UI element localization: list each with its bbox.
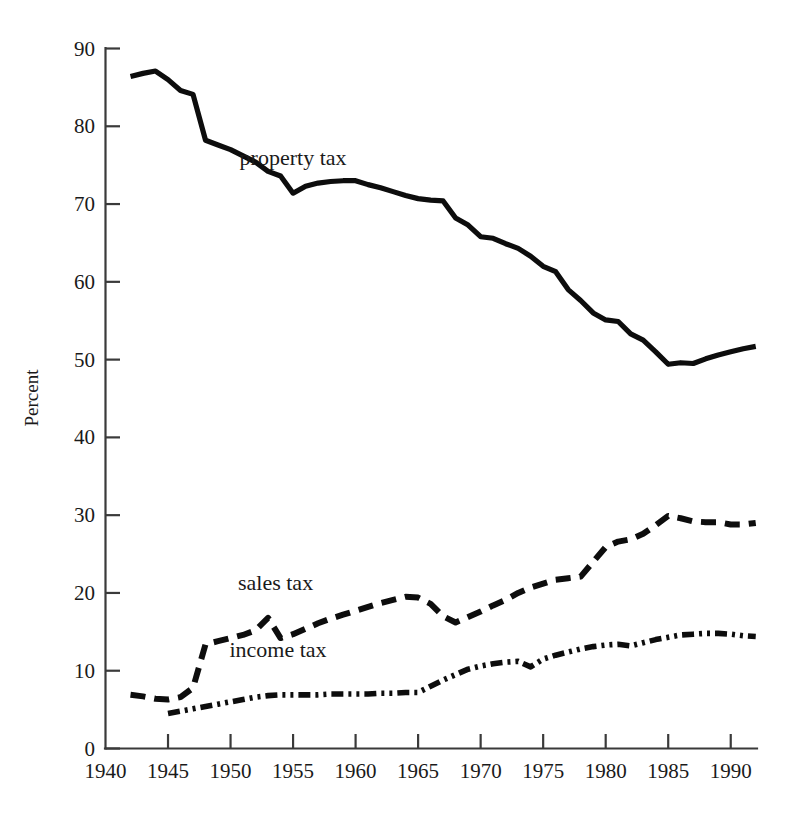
x-tick-label-1940: 1940 bbox=[85, 759, 127, 783]
y-tick-label-70: 70 bbox=[74, 192, 95, 216]
chart-page: 0102030405060708090 19401945195019551960… bbox=[0, 0, 792, 824]
y-axis-title: Percent bbox=[21, 369, 42, 427]
series-label-income-tax: income tax bbox=[229, 637, 326, 662]
y-tick-label-80: 80 bbox=[74, 114, 95, 138]
y-tick-label-10: 10 bbox=[74, 659, 95, 683]
x-tick-label-1975: 1975 bbox=[522, 759, 564, 783]
y-tick-label-60: 60 bbox=[74, 270, 95, 294]
y-tick-label-50: 50 bbox=[74, 348, 95, 372]
x-tick-marks bbox=[168, 734, 731, 749]
x-tick-label-1970: 1970 bbox=[460, 759, 502, 783]
y-tick-label-30: 30 bbox=[74, 503, 95, 527]
series-line-sales-tax bbox=[131, 516, 756, 700]
y-tick-label-0: 0 bbox=[85, 737, 96, 761]
series-labels: property taxsales taxincome tax bbox=[229, 145, 346, 662]
x-tick-label-1945: 1945 bbox=[147, 759, 189, 783]
x-tick-label-1955: 1955 bbox=[272, 759, 314, 783]
line-chart: 0102030405060708090 19401945195019551960… bbox=[0, 0, 792, 824]
x-tick-labels: 1940194519501955196019651970197519801985… bbox=[85, 759, 752, 783]
y-tick-label-20: 20 bbox=[74, 581, 95, 605]
series-label-sales-tax: sales tax bbox=[238, 570, 313, 595]
y-tick-label-90: 90 bbox=[74, 37, 95, 61]
axis-group bbox=[105, 48, 757, 749]
x-tick-label-1985: 1985 bbox=[647, 759, 689, 783]
y-tick-marks bbox=[106, 49, 121, 749]
series-label-property-tax: property tax bbox=[240, 145, 347, 170]
y-tick-labels: 0102030405060708090 bbox=[74, 37, 95, 761]
x-tick-label-1950: 1950 bbox=[210, 759, 252, 783]
x-tick-label-1960: 1960 bbox=[335, 759, 377, 783]
x-tick-label-1965: 1965 bbox=[397, 759, 439, 783]
series-line-property-tax bbox=[131, 71, 756, 364]
x-tick-label-1990: 1990 bbox=[710, 759, 752, 783]
series-paths bbox=[131, 71, 756, 713]
x-tick-label-1980: 1980 bbox=[585, 759, 627, 783]
y-tick-label-40: 40 bbox=[74, 425, 95, 449]
